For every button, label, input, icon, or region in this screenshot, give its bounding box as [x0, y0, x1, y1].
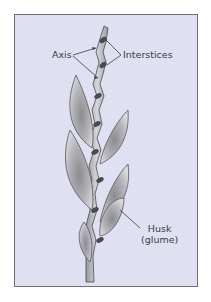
interstices-label: Interstices — [123, 49, 173, 60]
husk-label: Husk (glume) — [141, 223, 178, 245]
husk-label-line2: (glume) — [141, 234, 178, 245]
grass-spike-illustration — [0, 0, 211, 302]
interstices-leader-upper — [106, 40, 121, 55]
axis-leader-upper — [73, 48, 96, 55]
axis-leader-lower — [73, 56, 98, 78]
husk-right-1 — [100, 110, 128, 164]
node-8 — [95, 236, 104, 244]
axis-label: Axis — [52, 49, 72, 60]
interstices-leader-lower — [107, 55, 121, 65]
husk-right-3 — [100, 198, 124, 236]
husk-leader — [120, 210, 140, 228]
husk-label-line1: Husk — [141, 223, 178, 234]
